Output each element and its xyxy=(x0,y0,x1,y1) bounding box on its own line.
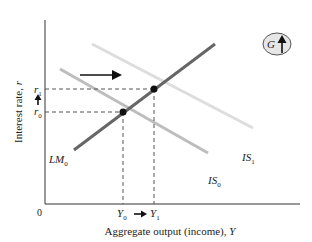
lm0-label: LM0 xyxy=(48,153,68,168)
government-spending-badge: G xyxy=(263,33,291,55)
r0-label: r0 xyxy=(34,105,42,120)
x-axis-label: Aggregate output (income), Y xyxy=(105,225,238,238)
svg-text:G: G xyxy=(267,38,275,50)
y-axis-label: Interest rate, r xyxy=(12,80,24,143)
is-lm-diagram: r1 r0 Interest rate, r 0 Y0 Y1 Aggregate… xyxy=(0,0,312,242)
is1-curve xyxy=(92,44,253,128)
shift-right-arrow-icon xyxy=(80,70,122,80)
y0-label: Y0 xyxy=(117,207,127,222)
is0-curve xyxy=(60,69,208,153)
equilibrium-point-0 xyxy=(120,109,127,116)
origin-label: 0 xyxy=(37,207,42,218)
y-right-arrow-icon xyxy=(134,211,147,218)
y1-label: Y1 xyxy=(150,207,160,222)
is1-label: IS1 xyxy=(241,151,255,166)
is0-label: IS0 xyxy=(207,174,221,189)
equilibrium-point-1 xyxy=(151,86,158,93)
